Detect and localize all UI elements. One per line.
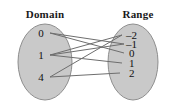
domain-node-4: 4 [33, 72, 49, 83]
domain-node-0: 0 [33, 28, 49, 39]
mapping-diagram-figure: Domain Range 0 1 4 –2 –1 0 1 2 [0, 0, 179, 108]
diagram-canvas [0, 0, 179, 108]
domain-node-1: 1 [33, 50, 49, 61]
range-node-2: 2 [129, 68, 147, 79]
